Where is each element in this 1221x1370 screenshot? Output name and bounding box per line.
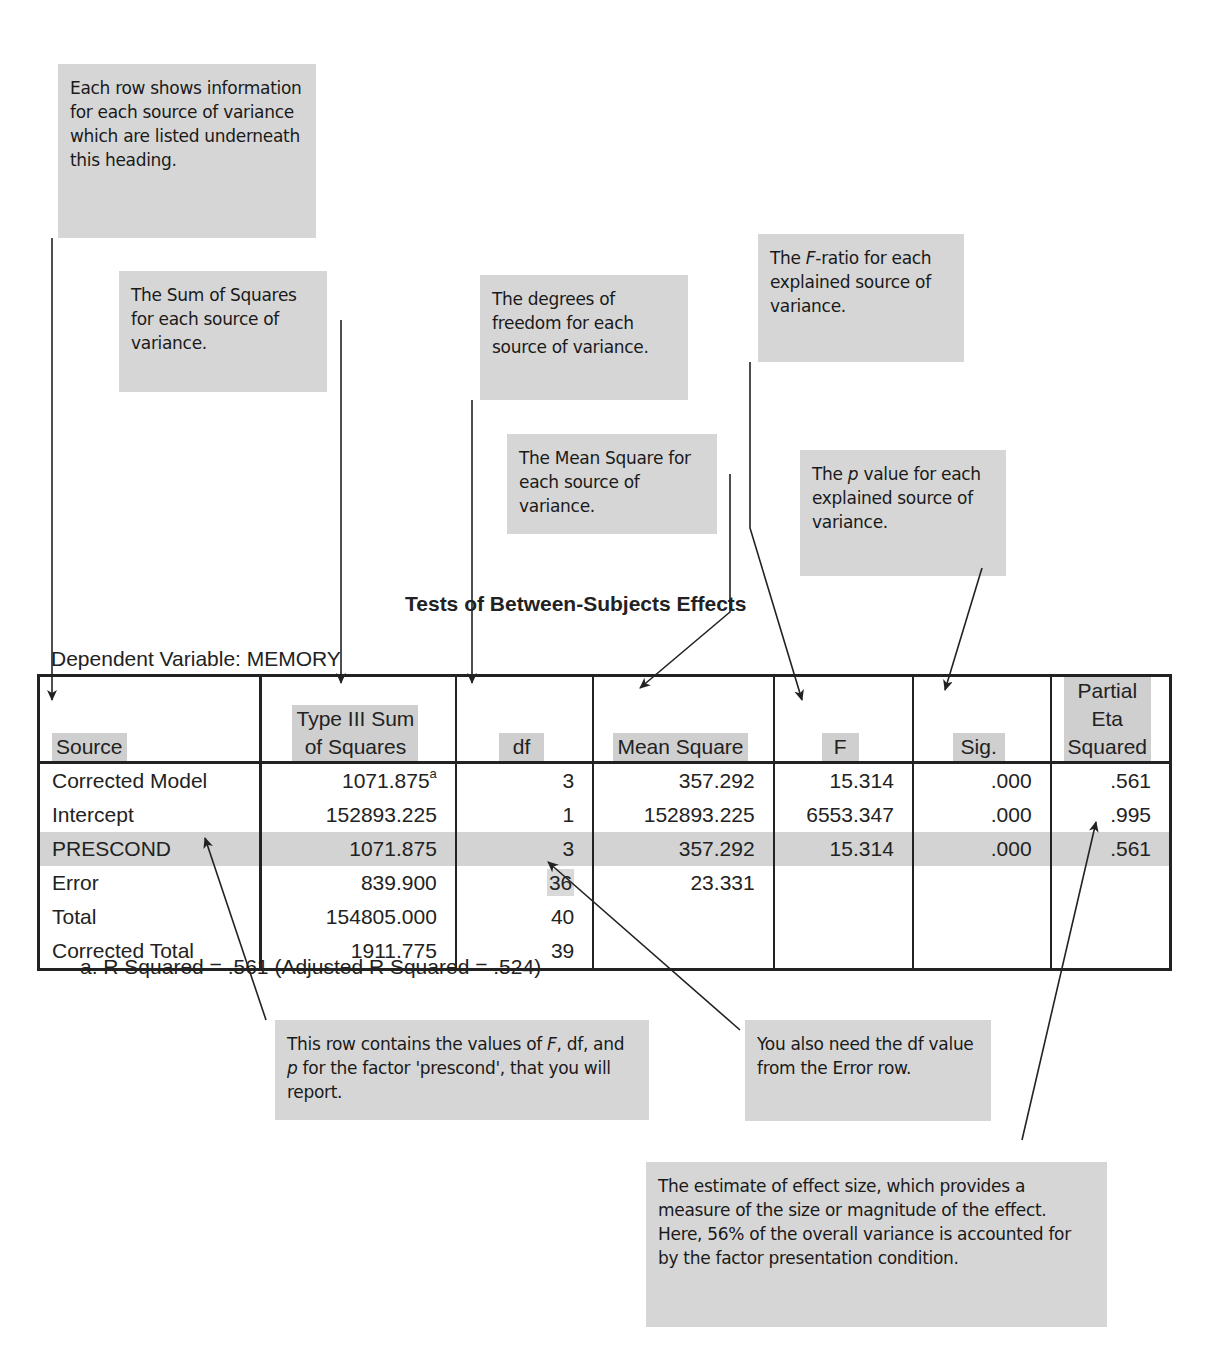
header-ss: Type III Sumof Squares xyxy=(261,676,456,763)
cell-source: Error xyxy=(39,866,261,900)
table-row-corrected-model: Corrected Model 1071.875a 3 357.292 15.3… xyxy=(39,763,1171,799)
cell-ms: 23.331 xyxy=(593,866,773,900)
cell-eta: .561 xyxy=(1051,832,1171,866)
dependent-variable-label: Dependent Variable: MEMORY xyxy=(51,647,341,671)
note-f-text-pre: The xyxy=(770,248,806,268)
note-error-df: You also need the df value from the Erro… xyxy=(745,1020,991,1121)
cell-df: 36 xyxy=(456,866,593,900)
note-mean-square: The Mean Square for each source of varia… xyxy=(507,434,717,534)
header-sig-label: Sig. xyxy=(953,733,1005,761)
note-row-text-2: , df, and xyxy=(557,1034,625,1054)
header-ss-line1: Type III Sum xyxy=(296,707,414,730)
cell-df: 3 xyxy=(456,763,593,799)
cell-source: PRESCOND xyxy=(39,832,261,866)
note-effect-size: The estimate of effect size, which provi… xyxy=(646,1162,1107,1327)
header-f-label: F xyxy=(822,733,859,761)
table-row-intercept: Intercept 152893.225 1 152893.225 6553.3… xyxy=(39,798,1171,832)
cell-f: 6553.347 xyxy=(774,798,913,832)
cell-f: 15.314 xyxy=(774,763,913,799)
cell-sig xyxy=(913,866,1051,900)
header-f: F xyxy=(774,676,913,763)
cell-ms xyxy=(593,934,773,970)
cell-ss: 1071.875a xyxy=(261,763,456,799)
cell-ms xyxy=(593,900,773,934)
cell-f xyxy=(774,900,913,934)
note-f-italic: F xyxy=(806,248,815,268)
arrow-sig xyxy=(945,568,982,690)
note-p-italic: p xyxy=(848,464,859,484)
table-title: Tests of Between-Subjects Effects xyxy=(405,592,747,616)
note-source: Each row shows information for each sour… xyxy=(58,64,316,238)
cell-f xyxy=(774,866,913,900)
note-row-italic-f: F xyxy=(547,1034,556,1054)
note-p-value: The p value for each explained source of… xyxy=(800,450,1006,576)
header-ms-label: Mean Square xyxy=(613,733,747,761)
cell-ss-value: 1071.875 xyxy=(342,769,430,792)
note-effect-text: The estimate of effect size, which provi… xyxy=(658,1176,1071,1268)
cell-df: 40 xyxy=(456,900,593,934)
table-row-error: Error 839.900 36 23.331 xyxy=(39,866,1171,900)
cell-df: 3 xyxy=(456,832,593,866)
header-eta-line2: Squared xyxy=(1068,735,1147,758)
cell-ms: 152893.225 xyxy=(593,798,773,832)
cell-eta xyxy=(1051,866,1171,900)
arrow-f xyxy=(750,362,802,700)
cell-sig: .000 xyxy=(913,832,1051,866)
anova-table: Source Type III Sumof Squares df Mean Sq… xyxy=(37,674,1172,971)
cell-sig xyxy=(913,934,1051,970)
cell-eta: .561 xyxy=(1051,763,1171,799)
cell-ms: 357.292 xyxy=(593,763,773,799)
cell-df: 1 xyxy=(456,798,593,832)
table-row-total: Total 154805.000 40 xyxy=(39,900,1171,934)
table-footnote: a. R Squared = .561 (Adjusted R Squared … xyxy=(80,955,541,979)
cell-ss: 154805.000 xyxy=(261,900,456,934)
header-ss-label: Type III Sumof Squares xyxy=(292,705,418,761)
table-row-prescond: PRESCOND 1071.875 3 357.292 15.314 .000 … xyxy=(39,832,1171,866)
cell-f: 15.314 xyxy=(774,832,913,866)
cell-eta: .995 xyxy=(1051,798,1171,832)
header-eta-line1: Partial Eta xyxy=(1078,679,1138,730)
note-df: The degrees of freedom for each source o… xyxy=(480,275,688,400)
header-source-label: Source xyxy=(52,733,127,761)
footnote-marker: a xyxy=(430,766,437,781)
note-df-text: The degrees of freedom for each source o… xyxy=(492,289,649,357)
note-row-text-1: This row contains the values of xyxy=(287,1034,547,1054)
note-prescond-row: This row contains the values of F, df, a… xyxy=(275,1020,649,1120)
note-sum-of-squares: The Sum of Squares for each source of va… xyxy=(119,271,327,392)
header-df: df xyxy=(456,676,593,763)
note-p-text-pre: The xyxy=(812,464,848,484)
cell-source: Intercept xyxy=(39,798,261,832)
note-ms-text: The Mean Square for each source of varia… xyxy=(519,448,691,516)
cell-sig xyxy=(913,900,1051,934)
note-row-text-3: for the factor 'prescond', that you will… xyxy=(287,1058,611,1102)
header-sig: Sig. xyxy=(913,676,1051,763)
cell-f xyxy=(774,934,913,970)
note-f-ratio: The F-ratio for each explained source of… xyxy=(758,234,964,362)
cell-ss: 1071.875 xyxy=(261,832,456,866)
cell-source: Corrected Model xyxy=(39,763,261,799)
note-row-italic-p: p xyxy=(287,1058,298,1078)
cell-ss: 839.900 xyxy=(261,866,456,900)
cell-eta xyxy=(1051,934,1171,970)
header-ms: Mean Square xyxy=(593,676,773,763)
cell-ms: 357.292 xyxy=(593,832,773,866)
note-error-df-text: You also need the df value from the Erro… xyxy=(757,1034,974,1078)
cell-sig: .000 xyxy=(913,763,1051,799)
header-source: Source xyxy=(39,676,261,763)
header-row: Source Type III Sumof Squares df Mean Sq… xyxy=(39,676,1171,763)
cell-df-highlight: 36 xyxy=(547,869,574,896)
header-eta: Partial EtaSquared xyxy=(1051,676,1171,763)
cell-sig: .000 xyxy=(913,798,1051,832)
note-source-text: Each row shows information for each sour… xyxy=(70,78,302,170)
note-ss-text: The Sum of Squares for each source of va… xyxy=(131,285,297,353)
header-df-label: df xyxy=(499,733,545,761)
cell-ss: 152893.225 xyxy=(261,798,456,832)
header-ss-line2: of Squares xyxy=(305,735,407,758)
cell-source: Total xyxy=(39,900,261,934)
header-eta-label: Partial EtaSquared xyxy=(1064,677,1151,761)
cell-eta xyxy=(1051,900,1171,934)
